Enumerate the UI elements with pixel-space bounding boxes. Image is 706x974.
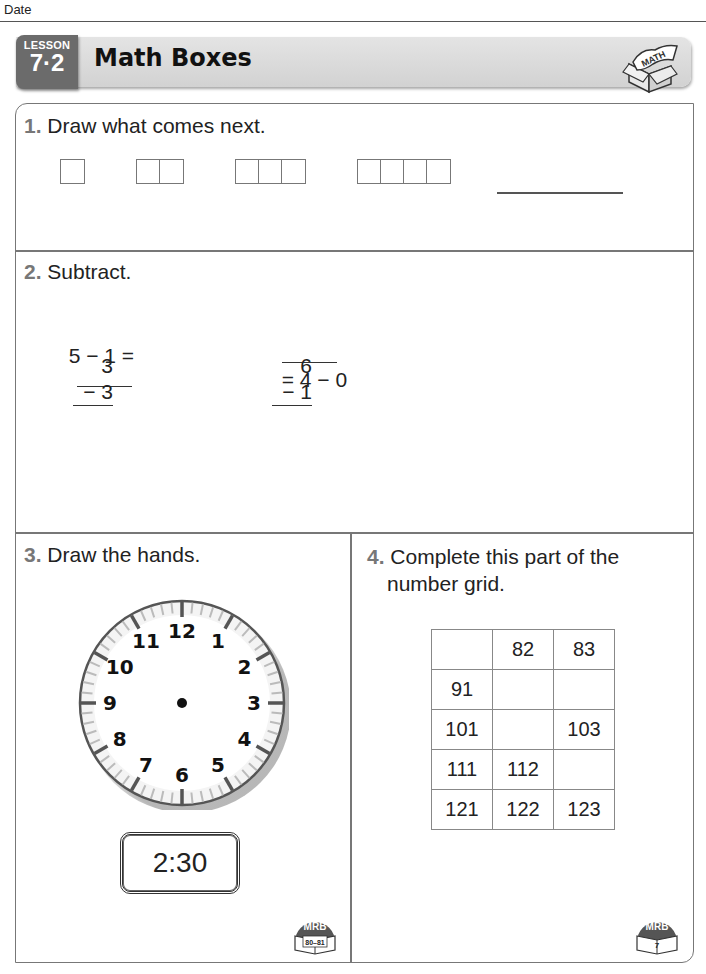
sequence-cell — [404, 160, 427, 183]
svg-text:7: 7 — [655, 941, 660, 950]
grid-row: 91 — [432, 670, 615, 710]
mrb-badge-p3: MRB 80–81 — [289, 912, 341, 956]
sequence-cell — [137, 160, 160, 183]
sequence-box-2 — [136, 159, 184, 184]
vertical-2-bottom: − 1 — [272, 379, 312, 406]
digital-time-box: 2:30 — [120, 832, 240, 894]
clock-numeral: 12 — [168, 619, 196, 643]
grid-row: 101103 — [432, 710, 615, 750]
problem-2-number: 2. — [24, 260, 42, 283]
divider-1-2 — [15, 250, 694, 252]
date-rule — [0, 21, 706, 22]
vertical-1-top: 3 — [73, 353, 113, 379]
sequence-cell — [61, 160, 84, 183]
sequence-cell — [160, 160, 183, 183]
clock-numeral: 11 — [132, 629, 160, 653]
math-box-icon: MATH — [619, 40, 683, 94]
grid-cell: 91 — [432, 670, 493, 710]
problem-1-number: 1. — [24, 114, 42, 137]
grid-cell-blank[interactable] — [432, 630, 493, 670]
svg-text:MRB: MRB — [646, 921, 669, 932]
problem-3-prompt: 3. Draw the hands. — [24, 543, 200, 567]
clock-numeral: 8 — [113, 727, 127, 751]
problem-4-prompt: 4. Complete this part of the number grid… — [367, 543, 619, 597]
problem-1-text: Draw what comes next. — [47, 114, 265, 137]
grid-row: 121122123 — [432, 790, 615, 830]
problem-1-prompt: 1. Draw what comes next. — [24, 114, 266, 138]
sequence-cell — [259, 160, 282, 183]
grid-cell: 103 — [554, 710, 615, 750]
divider-2-3 — [15, 532, 694, 534]
problem-4-text-line1: Complete this part of the — [390, 545, 619, 568]
sequence-box-1 — [60, 159, 85, 184]
digital-time: 2:30 — [123, 835, 237, 891]
vertical-2-top: 6 — [272, 353, 312, 379]
grid-cell: 122 — [493, 790, 554, 830]
sequence-cell — [236, 160, 259, 183]
problem-3-number: 3. — [24, 543, 42, 566]
svg-text:MRB: MRB — [304, 921, 327, 932]
sequence-cell — [427, 160, 450, 183]
sequence-box-4 — [357, 159, 451, 184]
date-label: Date — [4, 2, 31, 17]
clock-numeral: 4 — [237, 727, 251, 751]
vertical-1-bottom: − 3 — [73, 379, 113, 406]
problem-4-text-line2: number grid. — [367, 572, 505, 595]
grid-cell-blank[interactable] — [493, 670, 554, 710]
grid-cell: 83 — [554, 630, 615, 670]
clock-numeral: 6 — [175, 763, 189, 787]
clock-numeral: 7 — [139, 753, 153, 777]
divider-3-4 — [350, 532, 352, 963]
grid-cell: 112 — [493, 750, 554, 790]
grid-cell: 121 — [432, 790, 493, 830]
lesson-number: 7·2 — [16, 51, 78, 75]
sequence-cell — [282, 160, 305, 183]
grid-cell-blank[interactable] — [493, 710, 554, 750]
problem-3-text: Draw the hands. — [47, 543, 200, 566]
grid-cell-blank[interactable] — [554, 750, 615, 790]
problem-4-number: 4. — [367, 545, 385, 568]
grid-row: 111112 — [432, 750, 615, 790]
clock-face[interactable]: 121234567891011 — [75, 596, 289, 810]
clock-numeral: 5 — [211, 753, 225, 777]
clock-numeral: 9 — [103, 691, 117, 715]
grid-cell: 123 — [554, 790, 615, 830]
clock-numeral: 1 — [211, 629, 225, 653]
page-title: Math Boxes — [94, 44, 252, 72]
mrb-badge-p4: MRB 7 — [631, 912, 683, 956]
grid-row: 8283 — [432, 630, 615, 670]
grid-cell: 101 — [432, 710, 493, 750]
number-grid: 828391101103111112121122123 — [431, 629, 615, 830]
grid-cell-blank[interactable] — [554, 670, 615, 710]
problem-2-prompt: 2. Subtract. — [24, 260, 131, 284]
grid-cell: 82 — [493, 630, 554, 670]
sequence-cell — [358, 160, 381, 183]
problem-1-answer-blank[interactable] — [497, 192, 623, 194]
svg-text:80–81: 80–81 — [305, 939, 325, 946]
sequence-cell — [381, 160, 404, 183]
grid-cell: 111 — [432, 750, 493, 790]
clock-numeral: 2 — [237, 655, 251, 679]
vertical-subtraction-1: 3 − 3 — [73, 353, 113, 406]
problem-2-text: Subtract. — [47, 260, 131, 283]
clock-center-dot — [177, 698, 187, 708]
clock-numeral: 3 — [247, 691, 261, 715]
lesson-tab: LESSON 7·2 — [16, 35, 78, 89]
sequence-box-3 — [235, 159, 306, 184]
vertical-subtraction-2: 6 − 1 — [272, 353, 312, 406]
clock-numeral: 10 — [106, 655, 134, 679]
